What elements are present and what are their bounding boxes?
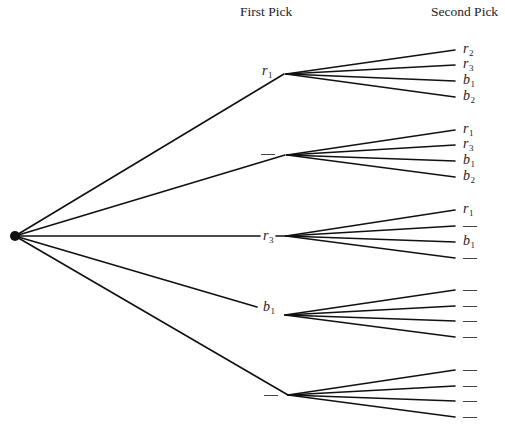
first-pick-label-2-blank bbox=[261, 154, 275, 155]
probability-tree-diagram: First Pick Second Pick r1r2r3b1b2r1r3b1b… bbox=[0, 0, 505, 430]
second-pick-label-4-4-blank bbox=[463, 337, 477, 338]
first-pick-branch-2 bbox=[15, 155, 285, 236]
second-pick-label-3-4-blank bbox=[463, 258, 477, 259]
first-pick-branch-4 bbox=[15, 236, 257, 307]
first-pick-branch-1 bbox=[15, 74, 284, 236]
second-pick-label-4-2-blank bbox=[463, 306, 477, 307]
second-pick-label-2-4: b2 bbox=[463, 169, 475, 187]
second-pick-branch-3-1 bbox=[286, 210, 455, 236]
second-pick-label-5-2-blank bbox=[463, 386, 477, 387]
second-pick-branch-3-2 bbox=[286, 226, 455, 236]
first-pick-label-4: b1 bbox=[263, 300, 275, 318]
second-pick-label-3-1: r1 bbox=[463, 202, 473, 220]
second-pick-branch-2-1 bbox=[287, 130, 455, 155]
first-pick-branch-5 bbox=[15, 236, 288, 395]
second-pick-label-5-4-blank bbox=[463, 417, 477, 418]
root-node-dot bbox=[10, 231, 20, 241]
first-pick-label-3: r3 bbox=[263, 229, 273, 247]
first-pick-label-1: r1 bbox=[262, 64, 272, 82]
second-pick-label-3-2-blank bbox=[463, 226, 477, 227]
second-pick-branch-1-1 bbox=[286, 50, 455, 74]
second-pick-label-5-3-blank bbox=[463, 401, 477, 402]
tree-lines bbox=[0, 0, 505, 430]
second-pick-label-4-3-blank bbox=[463, 321, 477, 322]
second-pick-branch-2-2 bbox=[287, 145, 455, 155]
second-pick-label-3-3: b1 bbox=[463, 234, 475, 252]
second-pick-label-4-1-blank bbox=[463, 290, 477, 291]
second-pick-label-5-1-blank bbox=[463, 370, 477, 371]
first-pick-label-5-blank bbox=[264, 395, 278, 396]
second-pick-label-1-4: b2 bbox=[463, 89, 475, 107]
second-pick-branch-1-2 bbox=[286, 65, 455, 74]
